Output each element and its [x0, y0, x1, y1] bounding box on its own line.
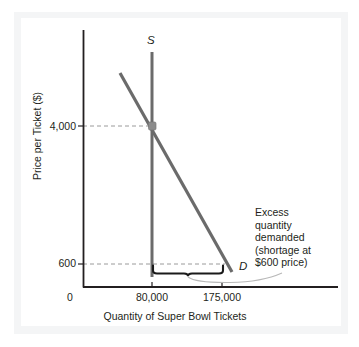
annotation-line-5: $600 price): [255, 256, 353, 269]
excess-quantity-annotation: Excess quantity demanded (shortage at $6…: [255, 206, 353, 269]
x-tick-label-175000: 175,000: [192, 291, 252, 303]
shortage-brace: [153, 266, 223, 277]
x-axis-title: Quantity of Super Bowl Tickets: [60, 310, 290, 322]
x-tick-label-80000: 80,000: [124, 291, 180, 303]
y-tick-label-4000: 4,000: [36, 120, 76, 132]
supply-curve-label: S: [147, 34, 155, 46]
demand-curve-label: D: [239, 260, 247, 272]
equilibrium-marker: [149, 122, 157, 130]
annotation-line-4: (shortage at: [255, 244, 353, 257]
annotation-line-1: Excess: [255, 206, 353, 219]
y-axis-title: Price per Ticket ($): [31, 61, 43, 211]
annotation-line-3: demanded: [255, 231, 353, 244]
x-tick-label-0: 0: [60, 291, 80, 303]
figure-container: Price per Ticket ($) Quantity of Super B…: [0, 0, 359, 347]
y-tick-label-600: 600: [36, 257, 76, 269]
demand-curve: [120, 73, 232, 272]
annotation-line-2: quantity: [255, 219, 353, 232]
